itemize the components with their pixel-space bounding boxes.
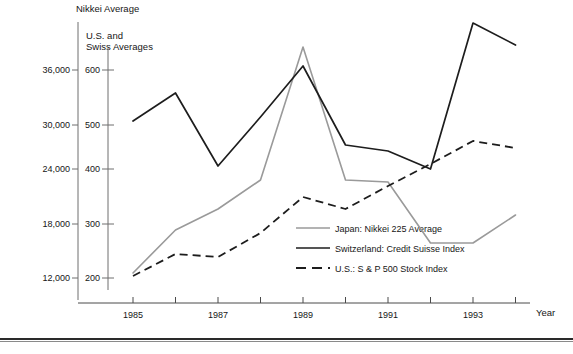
bottom-rule-thin: [0, 341, 573, 342]
series-line-swiss: [133, 23, 516, 169]
series-line-sp500: [133, 141, 516, 276]
chart-figure: Nikkei Average U.S. and Swiss Averages Y…: [0, 0, 573, 354]
chart-plot-area: [0, 0, 573, 354]
series-line-nikkei: [133, 47, 516, 273]
bottom-rule-thick: [0, 338, 573, 340]
x-axis-ticks: [133, 297, 516, 303]
y-axis-nikkei-ticks: [72, 70, 78, 278]
